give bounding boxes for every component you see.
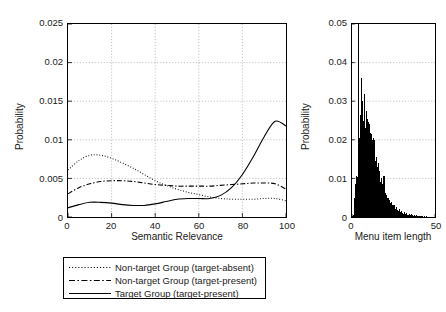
x-axis-ticks-left: 020406080100 xyxy=(0,0,292,250)
x-axis-label-left: Semantic Relevance xyxy=(131,231,223,242)
legend-label: Target Group (target-present) xyxy=(115,288,239,299)
x-tick-label: 80 xyxy=(238,221,249,231)
y-axis-label-left: Probability xyxy=(14,103,25,150)
x-tick-label: 0 xyxy=(64,221,69,231)
legend-swatch-solid-icon xyxy=(68,288,112,299)
chart-semantic-relevance: 00.0050.010.0150.020.025 020406080100 Se… xyxy=(0,0,292,250)
legend-label: Non-target Group (target-present) xyxy=(115,275,257,286)
legend-swatch-dotted-icon xyxy=(68,262,112,273)
x-tick-label: 60 xyxy=(194,221,205,231)
legend: Non-target Group (target-absent) Non-tar… xyxy=(63,257,266,299)
x-tick-label: 50 xyxy=(431,221,442,231)
legend-item: Non-target Group (target-present) xyxy=(68,274,265,286)
x-axis-ticks-right: 050 xyxy=(292,0,446,250)
x-tick-label: 20 xyxy=(106,221,117,231)
legend-label: Non-target Group (target-absent) xyxy=(115,262,254,273)
x-axis-label-right: Menu item length xyxy=(355,231,432,242)
x-tick-label: 0 xyxy=(348,221,353,231)
legend-item: Target Group (target-present) xyxy=(68,287,265,299)
x-tick-label: 40 xyxy=(150,221,161,231)
figure-panel-container: 00.0050.010.0150.020.025 020406080100 Se… xyxy=(0,0,446,312)
y-axis-label-right: Probability xyxy=(300,103,311,150)
legend-item: Non-target Group (target-absent) xyxy=(68,261,265,273)
chart-menu-item-length: 00.010.020.030.040.05 050 Menu item leng… xyxy=(292,0,446,250)
legend-swatch-dashdot-icon xyxy=(68,275,112,286)
